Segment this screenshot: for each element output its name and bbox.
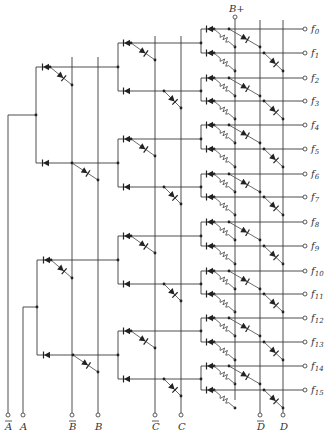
junction-dot xyxy=(163,283,166,286)
diode-icon xyxy=(124,328,131,335)
diode-icon xyxy=(207,122,214,129)
junction-dot xyxy=(200,235,203,238)
input-terminal xyxy=(21,413,25,417)
junction-dot xyxy=(259,239,262,242)
diode-icon xyxy=(240,322,249,332)
junction-dot xyxy=(200,42,203,45)
output-terminal xyxy=(303,51,307,55)
junction-dot xyxy=(180,300,183,303)
supply-terminal xyxy=(233,15,237,19)
diode-icon xyxy=(240,226,249,236)
diode-icon xyxy=(207,194,214,201)
diode-icon xyxy=(207,243,214,250)
decoder-circuit-diagram: B+AABBCCDDf0f1f2f3f4f5f6f7f8f9f10f11f12f… xyxy=(0,0,329,439)
output-label: f2 xyxy=(310,72,320,85)
diode-icon xyxy=(124,376,131,383)
diode-icon xyxy=(207,363,214,370)
junction-dot xyxy=(163,90,166,93)
diode-icon xyxy=(207,98,214,105)
junction-dot xyxy=(282,311,285,314)
diode-icon xyxy=(124,184,131,191)
output-label: f6 xyxy=(310,168,320,181)
output-label: f10 xyxy=(310,265,324,278)
junction-dot xyxy=(163,186,166,189)
diode-icon xyxy=(240,33,249,43)
output-terminal xyxy=(303,172,307,176)
junction-dot xyxy=(49,66,52,69)
output-label: f5 xyxy=(310,143,320,156)
input-label: D xyxy=(279,421,288,432)
output-terminal xyxy=(303,340,307,344)
junction-dot xyxy=(154,347,157,350)
junction-dot xyxy=(228,317,231,320)
output-label: f1 xyxy=(310,47,319,60)
output-terminal xyxy=(303,292,307,296)
junction-dot xyxy=(200,186,203,189)
output-terminal xyxy=(303,147,307,151)
junction-dot xyxy=(228,221,231,224)
diode-icon xyxy=(44,257,51,264)
diode-icon xyxy=(240,370,249,380)
input-terminal xyxy=(153,413,157,417)
junction-dot xyxy=(97,179,100,182)
junction-dot xyxy=(180,395,183,398)
circuit-components xyxy=(6,15,307,417)
output-label: f0 xyxy=(310,23,320,36)
diode-icon xyxy=(43,64,50,71)
junction-dot xyxy=(263,148,266,151)
junction-dot xyxy=(36,306,39,309)
input-terminal xyxy=(70,413,74,417)
diode-icon xyxy=(56,71,66,81)
output-label: f9 xyxy=(310,240,320,253)
resistor-icon xyxy=(214,246,235,264)
junction-dot xyxy=(117,259,120,262)
diode-icon xyxy=(207,315,214,322)
input-label: C xyxy=(152,421,160,432)
output-terminal xyxy=(303,316,307,320)
output-label: f4 xyxy=(310,119,319,132)
resistor-icon xyxy=(214,29,235,47)
diode-icon xyxy=(207,291,214,298)
output-label: f11 xyxy=(310,288,324,301)
junction-dot xyxy=(228,270,231,273)
diode-icon xyxy=(44,352,51,359)
junction-dot xyxy=(200,138,203,141)
junction-dot xyxy=(228,28,231,31)
output-terminal xyxy=(303,195,307,199)
junction-dot xyxy=(259,95,262,98)
diode-icon xyxy=(207,219,214,226)
output-label: f12 xyxy=(310,312,324,325)
junction-dot xyxy=(263,52,266,55)
output-label: f13 xyxy=(310,336,324,349)
junction-dot xyxy=(72,354,75,357)
junction-dot xyxy=(282,118,285,121)
junction-dot xyxy=(117,66,120,69)
diode-icon xyxy=(207,268,214,275)
input-terminal xyxy=(281,413,285,417)
output-terminal xyxy=(303,220,307,224)
junction-dot xyxy=(282,407,285,410)
diode-icon xyxy=(124,233,131,240)
output-terminal xyxy=(303,123,307,127)
junction-dot xyxy=(263,245,266,248)
junction-dot xyxy=(154,155,157,158)
junction-dot xyxy=(259,335,262,338)
resistor-icon xyxy=(214,53,235,71)
junction-dot xyxy=(282,70,285,73)
output-terminal xyxy=(303,244,307,248)
input-label: B xyxy=(94,421,102,432)
resistor-icon xyxy=(214,174,235,192)
junction-dot xyxy=(228,124,231,127)
junction-dot xyxy=(263,100,266,103)
junction-dot xyxy=(263,196,266,199)
output-label: f8 xyxy=(310,216,320,229)
junction-dot xyxy=(50,259,53,262)
diode-icon xyxy=(207,50,214,57)
diode-icon xyxy=(124,88,131,95)
junction-dot xyxy=(259,142,262,145)
output-label: f3 xyxy=(310,95,320,108)
diode-icon xyxy=(124,40,131,47)
diode-icon xyxy=(240,82,249,92)
diode-icon xyxy=(207,387,214,394)
circuit-wires xyxy=(8,19,303,413)
